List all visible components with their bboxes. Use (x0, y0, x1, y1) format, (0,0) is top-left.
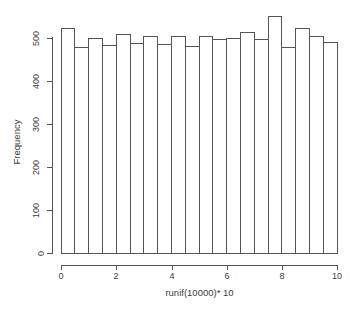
y-axis-title: Frequency (12, 102, 22, 182)
x-tick-label-2: 2 (113, 272, 118, 281)
histogram-bar (323, 42, 337, 253)
x-tick-4 (172, 265, 173, 270)
histogram-bar (75, 47, 89, 253)
y-tick-100 (47, 210, 52, 211)
histogram-bar (61, 28, 75, 253)
histogram-bar (254, 39, 268, 253)
x-axis-line (61, 265, 338, 266)
histogram-plot: 0 100 200 300 400 500 0 2 4 6 8 10 Frequ… (0, 0, 353, 309)
x-tick-6 (227, 265, 228, 270)
y-tick-label-500: 500 (0, 34, 44, 43)
y-tick-300 (47, 124, 52, 125)
x-tick-10 (337, 265, 338, 270)
histogram-bar (213, 40, 227, 253)
histogram-bar (268, 16, 282, 253)
x-tick-label-0: 0 (58, 272, 63, 281)
histogram-bar (185, 46, 199, 253)
y-tick-label-0: 0 (0, 249, 44, 258)
histogram-bar (102, 45, 116, 253)
histogram-bar (89, 38, 103, 253)
histogram-bar (240, 33, 254, 253)
x-tick-0 (61, 265, 62, 270)
x-tick-label-6: 6 (224, 272, 229, 281)
y-tick-label-300: 300 (0, 120, 44, 129)
x-tick-8 (282, 265, 283, 270)
y-tick-label-100: 100 (0, 206, 44, 215)
histogram-bar (227, 38, 241, 253)
histogram-bar (309, 36, 323, 253)
y-tick-400 (47, 81, 52, 82)
histogram-bar (282, 47, 296, 253)
histogram-bar (171, 37, 185, 253)
x-axis-title: runif(10000)* 10 (61, 288, 338, 298)
histogram-bar (130, 44, 144, 253)
y-tick-200 (47, 167, 52, 168)
y-tick-500 (47, 38, 52, 39)
y-tick-0 (47, 253, 52, 254)
x-tick-2 (116, 265, 117, 270)
histogram-bar (296, 29, 310, 253)
y-tick-label-400: 400 (0, 77, 44, 86)
x-tick-label-8: 8 (279, 272, 284, 281)
histogram-bar (199, 37, 213, 253)
histogram-bar (158, 44, 172, 253)
y-tick-label-200: 200 (0, 163, 44, 172)
histogram-bar (116, 35, 130, 253)
x-tick-label-10: 10 (332, 272, 342, 281)
histogram-bar (144, 37, 158, 253)
y-axis-line (52, 37, 53, 254)
x-tick-label-4: 4 (169, 272, 174, 281)
